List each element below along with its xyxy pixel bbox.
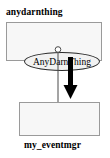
package-box-my-eventmgr[interactable]: EventMgr bbox=[19, 102, 100, 136]
dependency-arrowhead-icon bbox=[64, 85, 78, 99]
package-label-my-eventmgr: my_eventmgr bbox=[24, 140, 81, 151]
lollipop-connector-circle-icon bbox=[55, 47, 61, 53]
diagram-canvas: anydarnthing AnyDarnThing EventMgr my_ev… bbox=[0, 0, 110, 158]
